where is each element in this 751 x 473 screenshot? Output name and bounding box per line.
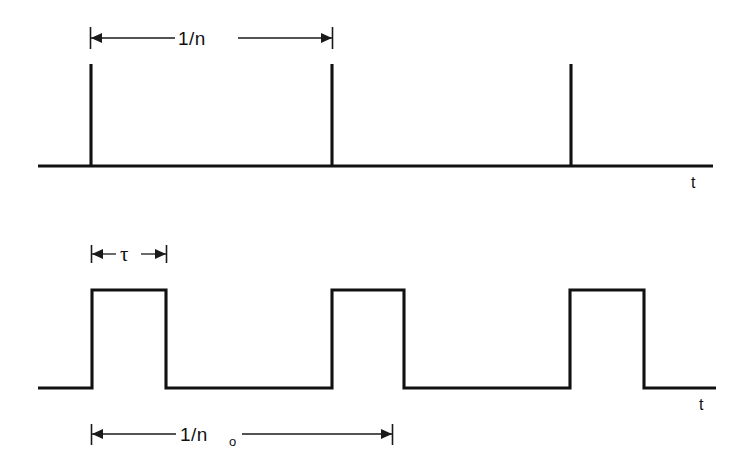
dimension-label-period-main: 1/n [180,424,208,445]
axis-label-t: t [699,396,704,413]
arrowhead-right-icon [155,249,166,259]
dimension-tau: τ [92,242,167,266]
axis-label-t: t [691,174,696,191]
pulse-train-waveform [38,290,716,388]
dimension-1-over-n-sub-o: 1/n o [92,424,393,449]
panel-rectangular-pulse-train: τ t 1/n o [38,242,716,449]
dimension-label-pulse-width: τ [120,242,128,266]
arrowhead-left-icon [92,429,103,439]
arrowhead-left-icon [91,33,102,43]
dimension-1-over-n: 1/n [91,27,333,49]
figure-canvas: 1/n t τ [0,0,751,473]
waveform-diagram: 1/n t τ [0,0,751,473]
arrowhead-right-icon [381,429,392,439]
arrowhead-left-icon [92,249,103,259]
arrowhead-right-icon [321,33,332,43]
dimension-label-period-subscript: o [229,434,236,449]
panel-impulse-train: 1/n t [38,27,713,191]
dimension-label-period: 1/n [178,28,206,49]
